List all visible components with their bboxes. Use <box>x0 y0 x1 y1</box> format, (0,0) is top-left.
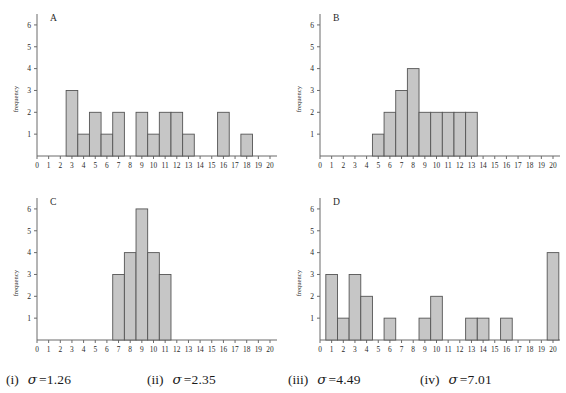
y-tick-label: 3 <box>27 270 31 279</box>
x-tick-label: 8 <box>411 161 415 170</box>
bars-group <box>326 253 559 340</box>
x-tick-label: 5 <box>93 161 97 170</box>
histogram-bar <box>396 90 408 156</box>
histogram-bar <box>66 90 78 156</box>
histogram-bar <box>349 274 361 340</box>
x-tick-label: 8 <box>128 161 132 170</box>
x-tick-label: 0 <box>318 345 322 354</box>
histogram-bar <box>361 296 373 340</box>
y-tick-label: 1 <box>27 314 31 323</box>
histogram-bar <box>372 134 384 156</box>
histogram-bar <box>159 274 171 340</box>
x-tick-label: 6 <box>388 345 392 354</box>
x-tick-label: 6 <box>105 161 109 170</box>
y-tick-label: 1 <box>310 130 314 139</box>
histogram-bar <box>148 253 160 340</box>
sigma-symbol-iv: σ <box>449 371 458 387</box>
x-tick-label: 15 <box>491 345 499 354</box>
y-tick-label: 5 <box>27 43 31 52</box>
histogram-bar <box>384 112 396 156</box>
x-tick-label: 9 <box>423 345 427 354</box>
x-tick-label: 17 <box>514 345 522 354</box>
x-tick-label: 13 <box>468 345 476 354</box>
caption-item-ii: (ii) σ =2.35 <box>147 371 216 388</box>
x-tick-label: 12 <box>456 345 464 354</box>
figure-caption: (i) σ =1.26 (ii) σ =2.35 (iii) σ =4.49 (… <box>0 366 566 393</box>
histogram-c: 12345601234567891011121314151617181920fr… <box>0 186 283 368</box>
histogram-bar <box>384 318 396 340</box>
y-tick-label: 4 <box>27 64 31 73</box>
histogram-bar <box>466 112 478 156</box>
histogram-figure: 12345601234567891011121314151617181920fr… <box>0 0 566 393</box>
x-tick-label: 19 <box>538 161 546 170</box>
y-tick-label: 4 <box>310 64 314 73</box>
x-tick-label: 11 <box>445 161 452 170</box>
bars-group <box>113 209 171 340</box>
histogram-d: 12345601234567891011121314151617181920fr… <box>283 186 566 368</box>
x-tick-label: 4 <box>365 345 369 354</box>
histogram-bar <box>419 318 431 340</box>
x-tick-label: 10 <box>150 161 158 170</box>
histogram-bar <box>547 253 559 340</box>
caption-item-iii: (iii) σ =4.49 <box>288 371 361 388</box>
y-tick-label: 3 <box>310 270 314 279</box>
x-tick-label: 2 <box>58 161 62 170</box>
histogram-bar <box>159 112 171 156</box>
histogram-bar <box>101 134 113 156</box>
x-tick-label: 20 <box>266 345 274 354</box>
x-tick-label: 5 <box>376 345 380 354</box>
y-tick-label: 4 <box>27 248 31 257</box>
x-tick-label: 9 <box>423 161 427 170</box>
histogram-bar <box>454 112 466 156</box>
x-tick-label: 3 <box>70 345 74 354</box>
x-tick-label: 18 <box>243 161 251 170</box>
caption-roman-ii: (ii) <box>147 372 164 388</box>
histogram-bar <box>124 253 136 340</box>
panel-letter: B <box>333 12 339 23</box>
caption-roman-i: (i) <box>6 372 19 388</box>
histogram-b: 12345601234567891011121314151617181920fr… <box>283 2 566 184</box>
x-tick-label: 19 <box>255 345 263 354</box>
x-tick-label: 8 <box>411 345 415 354</box>
x-tick-label: 20 <box>266 161 274 170</box>
x-tick-label: 14 <box>479 161 487 170</box>
x-tick-label: 9 <box>140 161 144 170</box>
x-tick-label: 6 <box>105 345 109 354</box>
panel-c: 12345601234567891011121314151617181920fr… <box>0 186 283 368</box>
x-tick-label: 16 <box>220 161 228 170</box>
panel-letter: C <box>50 196 56 207</box>
sigma-symbol-ii: σ <box>173 371 182 387</box>
x-tick-label: 11 <box>162 161 169 170</box>
x-tick-label: 11 <box>445 345 452 354</box>
x-tick-label: 12 <box>173 161 181 170</box>
sigma-symbol-i: σ <box>28 371 37 387</box>
y-tick-label: 2 <box>310 292 314 301</box>
x-tick-label: 17 <box>514 161 522 170</box>
histogram-bar <box>442 112 454 156</box>
x-tick-label: 20 <box>549 345 557 354</box>
y-tick-label: 1 <box>310 314 314 323</box>
sigma-value-iv: =7.01 <box>460 372 492 388</box>
x-tick-label: 7 <box>400 161 404 170</box>
x-tick-label: 16 <box>503 345 511 354</box>
x-tick-label: 18 <box>526 161 534 170</box>
histogram-bar <box>89 112 101 156</box>
x-tick-label: 14 <box>196 345 204 354</box>
x-tick-label: 3 <box>353 161 357 170</box>
x-tick-label: 5 <box>93 345 97 354</box>
histogram-bar <box>113 112 125 156</box>
sigma-value-iii: =4.49 <box>328 372 360 388</box>
bars-group <box>372 69 477 156</box>
x-tick-label: 4 <box>82 161 86 170</box>
x-tick-label: 10 <box>150 345 158 354</box>
x-tick-label: 14 <box>479 345 487 354</box>
caption-item-iv: (iv) σ =7.01 <box>420 371 492 388</box>
histogram-bar <box>326 274 338 340</box>
y-tick-label: 1 <box>27 130 31 139</box>
histogram-bar <box>477 318 489 340</box>
x-tick-label: 15 <box>208 161 216 170</box>
x-tick-label: 9 <box>140 345 144 354</box>
x-tick-label: 2 <box>341 345 345 354</box>
y-axis-title: frequency <box>295 269 302 296</box>
histogram-a: 12345601234567891011121314151617181920fr… <box>0 2 283 184</box>
